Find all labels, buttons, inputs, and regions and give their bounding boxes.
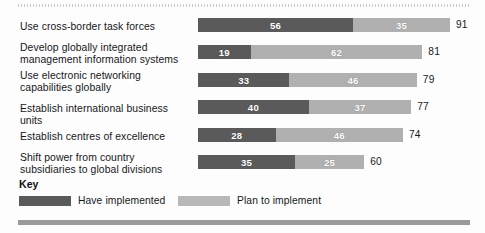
bar-category-label-line: management information systems xyxy=(20,54,192,66)
bar-segment-have-implemented: 33 xyxy=(198,73,289,87)
legend-label-plan-to-implement: Plan to implement xyxy=(237,195,321,206)
bar-category-label-line: Use cross-border task forces xyxy=(20,21,192,33)
legend-item-plan-to-implement: Plan to implement xyxy=(178,195,321,206)
bar-segment-value: 40 xyxy=(248,102,259,113)
bar-category-label-line: Use electronic networking xyxy=(20,70,192,82)
bar-row: Use cross-border task forces563591 xyxy=(0,15,485,41)
bar-segment-plan-to-implement: 46 xyxy=(289,73,416,87)
bar-row: Establish international business units40… xyxy=(0,97,485,123)
bar-category-label: Develop globally integratedmanagement in… xyxy=(20,42,192,67)
bar-segment-plan-to-implement: 25 xyxy=(295,155,364,169)
bar-row: Use electronic networkingcapabilities gl… xyxy=(0,70,485,96)
bar-segment-plan-to-implement: 35 xyxy=(353,18,450,32)
bar-total-value: 74 xyxy=(409,129,421,140)
stacked-bar: 1962 xyxy=(198,45,422,59)
bar-segment-value: 19 xyxy=(219,47,230,58)
bar-category-label-line: Develop globally integrated xyxy=(20,42,192,54)
bar-row: Develop globally integratedmanagement in… xyxy=(0,42,485,68)
bar-segment-plan-to-implement: 46 xyxy=(276,128,403,142)
bar-total-value: 79 xyxy=(423,74,435,85)
legend-title: Key xyxy=(19,178,38,190)
bar-row: Shift power from countrysubsidiaries to … xyxy=(0,152,485,178)
stacked-bar: 4037 xyxy=(198,100,411,114)
chart-legend: Key Have implemented Plan to implement xyxy=(0,178,485,214)
bar-segment-value: 46 xyxy=(334,130,345,141)
bar-total-value: 81 xyxy=(428,46,440,57)
bar-row: Establish centres of excellence284674 xyxy=(0,125,485,151)
bar-segment-value: 46 xyxy=(348,75,359,86)
bar-total-value: 60 xyxy=(370,156,382,167)
bar-segment-value: 25 xyxy=(324,157,335,168)
bar-segment-have-implemented: 35 xyxy=(198,155,295,169)
bar-category-label-line: subsidiaries to global divisions xyxy=(20,164,192,176)
bar-category-label-line: Establish centres of excellence xyxy=(20,131,192,143)
bar-segment-plan-to-implement: 62 xyxy=(251,45,423,59)
top-divider-rule xyxy=(18,4,470,7)
bar-total-value: 77 xyxy=(417,101,429,112)
bar-segment-value: 35 xyxy=(396,20,407,31)
stacked-bar: 2846 xyxy=(198,128,403,142)
bar-segment-value: 28 xyxy=(231,130,242,141)
bar-segment-plan-to-implement: 37 xyxy=(309,100,411,114)
legend-item-have-implemented: Have implemented xyxy=(19,195,165,206)
bar-segment-have-implemented: 28 xyxy=(198,128,276,142)
bar-total-value: 91 xyxy=(456,19,468,30)
bar-category-label: Use electronic networkingcapabilities gl… xyxy=(20,70,192,95)
bar-segment-have-implemented: 19 xyxy=(198,45,251,59)
bar-category-label-line: Shift power from country xyxy=(20,152,192,164)
bar-segment-value: 33 xyxy=(238,75,249,86)
legend-swatch-plan-to-implement xyxy=(178,196,230,206)
legend-swatch-have-implemented xyxy=(19,196,71,206)
legend-label-have-implemented: Have implemented xyxy=(78,195,165,206)
stacked-bar: 3525 xyxy=(198,155,364,169)
stacked-bar: 5635 xyxy=(198,18,450,32)
bar-category-label: Establish centres of excellence xyxy=(20,131,192,143)
bar-segment-have-implemented: 40 xyxy=(198,100,309,114)
bar-segment-value: 62 xyxy=(331,47,342,58)
bar-segment-value: 35 xyxy=(241,157,252,168)
bar-category-label: Use cross-border task forces xyxy=(20,21,192,33)
stacked-bar: 3346 xyxy=(198,73,417,87)
bar-category-label-line: capabilities globally xyxy=(20,82,192,94)
bar-segment-have-implemented: 56 xyxy=(198,18,353,32)
bar-category-label: Shift power from countrysubsidiaries to … xyxy=(20,152,192,177)
bar-segment-value: 37 xyxy=(354,102,365,113)
stacked-bar-chart: Use cross-border task forces563591Develo… xyxy=(0,0,485,233)
bottom-divider-rule xyxy=(18,220,470,225)
chart-plot-area: Use cross-border task forces563591Develo… xyxy=(0,12,485,172)
bar-segment-value: 56 xyxy=(270,20,281,31)
